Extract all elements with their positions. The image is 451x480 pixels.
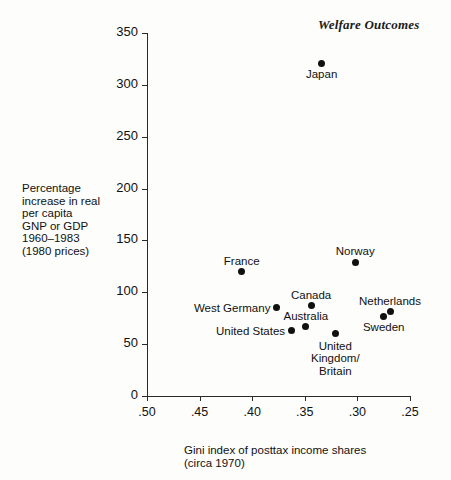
data-point-label: United States: [216, 324, 285, 337]
data-point-label: Sweden: [363, 321, 405, 334]
y-tick-mark: [142, 240, 147, 241]
data-point-marker: [332, 330, 339, 337]
chart-title: Welfare Outcomes: [318, 17, 420, 33]
data-point-marker: [352, 259, 359, 266]
data-point-marker: [288, 327, 295, 334]
data-point-label: Australia: [283, 309, 328, 322]
x-tick-mark: [410, 396, 411, 401]
data-point-label: Japan: [306, 68, 337, 81]
data-point-marker: [380, 313, 387, 320]
y-tick-label: 50: [124, 335, 138, 350]
data-point-label: Netherlands: [359, 294, 421, 307]
data-point-label: Norway: [336, 245, 375, 258]
y-tick-label: 150: [116, 231, 138, 246]
data-point-marker: [302, 323, 309, 330]
x-tick-label: .45: [191, 405, 208, 419]
x-tick-label: .25: [401, 405, 418, 419]
y-tick-mark: [142, 33, 147, 34]
data-point-marker: [387, 308, 394, 315]
x-tick-mark: [357, 396, 358, 401]
x-tick-label: .50: [138, 405, 155, 419]
x-tick-mark: [252, 396, 253, 401]
y-axis-caption: Percentage increase in real per capita G…: [22, 182, 100, 258]
x-tick-label: .35: [296, 405, 313, 419]
y-tick-label: 350: [116, 24, 138, 39]
data-point-marker: [273, 304, 280, 311]
x-tick-mark: [305, 396, 306, 401]
data-point-marker: [238, 268, 245, 275]
y-tick-mark: [142, 344, 147, 345]
y-tick-label: 300: [116, 76, 138, 91]
plot-area: 050100150200250300350 .50.45.40.35.30.25…: [147, 33, 410, 396]
x-tick-label: .40: [243, 405, 260, 419]
data-point-marker: [318, 60, 325, 67]
y-tick-label: 200: [116, 180, 138, 195]
data-point-label: West Germany: [194, 302, 270, 315]
welfare-outcomes-scatter-figure: Welfare Outcomes Percentage increase in …: [0, 0, 451, 480]
y-tick-label: 100: [116, 283, 138, 298]
y-tick-mark: [142, 137, 147, 138]
y-axis-line: [147, 33, 148, 396]
x-axis-caption: Gini index of posttax income shares (cir…: [184, 444, 366, 470]
y-tick-mark: [142, 292, 147, 293]
y-tick-mark: [142, 189, 147, 190]
y-tick-label: 0: [131, 387, 138, 402]
x-tick-mark: [200, 396, 201, 401]
x-axis-line: [147, 396, 410, 397]
data-point-label: Canada: [291, 288, 331, 301]
x-tick-mark: [147, 396, 148, 401]
y-tick-mark: [142, 85, 147, 86]
data-point-label: France: [224, 254, 260, 267]
y-tick-label: 250: [116, 128, 138, 143]
data-point-label: United Kingdom/ Britain: [298, 340, 373, 378]
x-tick-label: .30: [349, 405, 366, 419]
